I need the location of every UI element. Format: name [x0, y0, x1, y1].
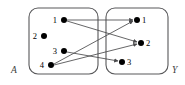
node-y-3-dot [119, 59, 125, 65]
node-y-3-label: 3 [127, 57, 131, 67]
mapping-diagram: 1 2 3 4 1 2 3 A Y [0, 0, 185, 85]
edge-group [54, 20, 137, 65]
set-label-a: A [10, 65, 17, 75]
node-a-2-label: 2 [33, 31, 37, 41]
node-y-2-label: 2 [146, 38, 150, 48]
node-y-1-dot [134, 17, 140, 23]
node-a-2-dot [41, 33, 47, 39]
set-a-nodes: 1 2 3 4 [33, 15, 67, 70]
node-a-1-dot [61, 17, 67, 23]
node-y-1-label: 1 [142, 15, 146, 25]
set-label-y: Y [172, 65, 179, 75]
edge-a4-y1 [54, 21, 133, 64]
node-a-3-label: 3 [53, 46, 57, 56]
node-a-3-dot [61, 48, 67, 54]
node-a-4-dot [48, 62, 54, 68]
node-y-2-dot [138, 40, 144, 46]
mapping-diagram-canvas: 1 2 3 4 1 2 3 A Y [0, 0, 185, 85]
node-a-1-label: 1 [53, 15, 57, 25]
node-a-4-label: 4 [40, 60, 45, 70]
